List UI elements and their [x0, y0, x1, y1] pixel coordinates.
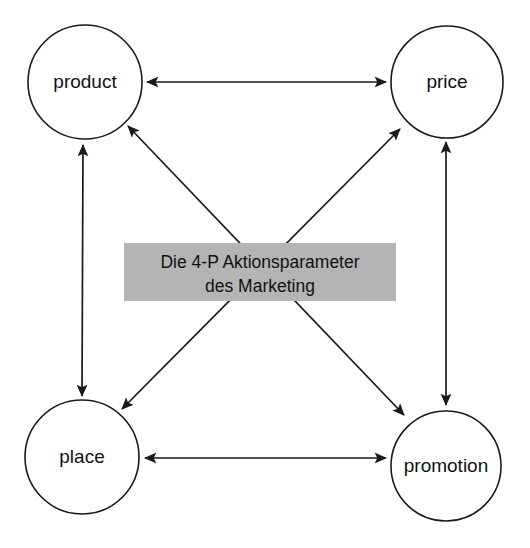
marketing-mix-diagram: Die 4-P Aktionsparameter des Marketing p… — [0, 0, 530, 548]
node-place[interactable]: place — [25, 400, 139, 514]
edge-product-place — [82, 145, 83, 396]
node-place-label: place — [59, 446, 104, 467]
node-product[interactable]: product — [28, 25, 142, 139]
node-price[interactable]: price — [391, 26, 503, 138]
center-label-box: Die 4-P Aktionsparameter des Marketing — [124, 243, 396, 301]
center-label-line2: des Marketing — [205, 276, 315, 296]
node-price-label: price — [426, 71, 467, 92]
diagram-canvas: Die 4-P Aktionsparameter des Marketing p… — [0, 0, 530, 548]
node-promotion-label: promotion — [404, 455, 489, 476]
center-label-line1: Die 4-P Aktionsparameter — [160, 252, 359, 272]
node-product-label: product — [53, 71, 117, 92]
node-promotion[interactable]: promotion — [391, 411, 501, 521]
